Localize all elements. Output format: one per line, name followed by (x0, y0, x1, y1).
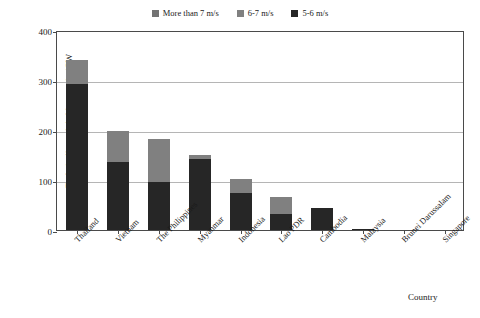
bar-segment (66, 60, 88, 84)
bar-thailand[interactable] (66, 60, 88, 231)
chart-legend: More than 7 m/s6-7 m/s5-6 m/s (0, 8, 480, 18)
legend-label: More than 7 m/s (163, 8, 219, 18)
y-tick-label: 100 (39, 178, 53, 187)
bar-segment (107, 131, 129, 162)
plot-area: Technically exploitable capacity/GW 0100… (56, 31, 464, 231)
legend-label: 6-7 m/s (248, 8, 274, 18)
bar-segment (270, 197, 292, 214)
y-tick-label: 200 (39, 128, 53, 137)
y-tick-label: 400 (39, 28, 53, 37)
y-tick-mark (53, 82, 57, 83)
legend-swatch-icon (237, 10, 244, 17)
legend-swatch-icon (152, 10, 159, 17)
legend-label: 5-6 m/s (302, 8, 328, 18)
legend-item: 5-6 m/s (291, 8, 328, 18)
bar-segment (189, 159, 211, 231)
bar-indonesia[interactable] (230, 179, 252, 230)
bar-the-philippines[interactable] (148, 139, 170, 230)
bar-segment (107, 162, 129, 231)
gridline (57, 82, 463, 83)
wind-capacity-stacked-bar-chart: More than 7 m/s6-7 m/s5-6 m/s Technicall… (0, 0, 480, 318)
y-tick-label: 0 (48, 228, 53, 237)
legend-item: More than 7 m/s (152, 8, 219, 18)
x-axis-title: Country (408, 292, 438, 302)
bar-segment (148, 139, 170, 182)
legend-item: 6-7 m/s (237, 8, 274, 18)
bar-myanmar[interactable] (189, 155, 211, 230)
y-tick-mark (53, 32, 57, 33)
y-tick-mark (53, 182, 57, 183)
y-tick-mark (53, 132, 57, 133)
bar-segment (148, 182, 170, 230)
y-tick-mark (53, 232, 57, 233)
bar-segment (66, 84, 88, 231)
bar-segment (230, 179, 252, 193)
y-tick-label: 300 (39, 78, 53, 87)
bar-vietnam[interactable] (107, 131, 129, 230)
legend-swatch-icon (291, 10, 298, 17)
